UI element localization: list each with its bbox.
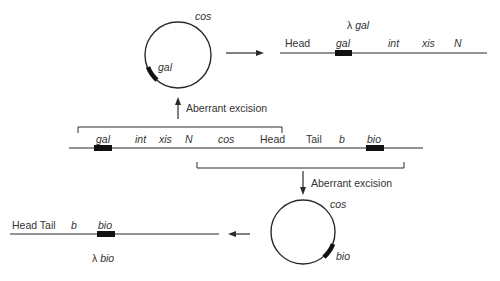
gal-gene-segment xyxy=(148,67,157,80)
label-n: N xyxy=(454,37,462,49)
arrow-right-icon xyxy=(226,50,264,56)
label-gal: gal xyxy=(96,133,111,145)
gal-gene-box xyxy=(94,145,112,151)
label-xis: xis xyxy=(158,133,173,145)
bottom-circle-cos-label: cos xyxy=(330,198,347,210)
lower-bracket xyxy=(197,162,404,168)
bottom-circle-lambda-bio: cos bio xyxy=(271,198,350,264)
label-head: Head xyxy=(285,37,310,49)
lambda-bio-title: λ bio xyxy=(92,252,114,264)
lambda-bio-linear: Head Tail b bio λ bio xyxy=(10,219,219,264)
arrow-up-icon xyxy=(175,97,181,119)
bio-gene-box xyxy=(97,231,115,237)
label-bio: bio xyxy=(367,133,381,145)
lambda-gal-linear: λ gal Head gal int xis N xyxy=(280,19,487,56)
label-int: int xyxy=(135,133,147,145)
label-xis: xis xyxy=(421,37,436,49)
label-head: Head xyxy=(260,133,285,145)
label-gal: gal xyxy=(336,37,351,49)
top-circle-cos-label: cos xyxy=(195,10,212,22)
top-circle-lambda-gal: cos gal xyxy=(145,10,212,88)
gal-gene-box xyxy=(335,50,352,56)
label-b: b xyxy=(71,219,77,231)
integrated-prophage: gal int xis N cos Head Tail b bio xyxy=(69,133,423,151)
label-int: int xyxy=(388,37,400,49)
arrow-down-icon xyxy=(300,171,306,195)
bio-gene-box xyxy=(366,145,384,151)
aberrant-excision-diagram: cos gal λ gal Head gal int xis N Aberran… xyxy=(0,0,500,281)
label-bio: bio xyxy=(98,219,112,231)
top-circle-gal-label: gal xyxy=(158,61,173,73)
label-cos: cos xyxy=(218,133,235,145)
label-b: b xyxy=(339,133,345,145)
upper-excision-label: Aberrant excision xyxy=(186,102,267,114)
label-tail: Tail xyxy=(306,133,322,145)
label-n: N xyxy=(185,133,193,145)
lower-excision-label: Aberrant excision xyxy=(311,177,392,189)
bottom-circle-bio-label: bio xyxy=(336,250,350,262)
bio-gene-segment xyxy=(324,244,333,257)
arrow-left-icon xyxy=(228,231,250,237)
label-head-tail: Head Tail xyxy=(12,219,56,231)
lambda-gal-title: λ gal xyxy=(347,19,370,31)
